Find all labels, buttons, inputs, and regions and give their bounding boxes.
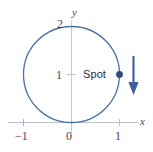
- spot-point-label: Spot: [83, 69, 106, 80]
- math-figure: 2 1 −1 0 1 y x Spot: [0, 0, 153, 152]
- y-tick-label-1: 1: [56, 69, 62, 81]
- x-tick-label-1: 1: [115, 130, 121, 142]
- y-tick-label-2: 2: [57, 18, 63, 30]
- x-tick-label-minus1: −1: [15, 130, 28, 142]
- down-arrow-icon: [128, 56, 138, 95]
- spot-point-marker: [116, 71, 123, 78]
- y-axis-label: y: [72, 7, 77, 18]
- x-tick-label-0: 0: [66, 130, 72, 142]
- x-axis-label: x: [140, 116, 145, 127]
